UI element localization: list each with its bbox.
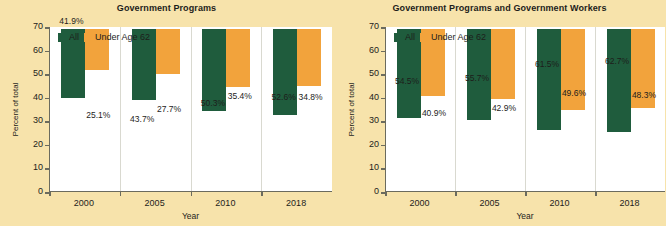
bar-value-label: 61.5% (535, 59, 559, 69)
bar-all-2010[interactable]: 50.3% (202, 29, 226, 191)
legend-label-under-age-62: Under Age 62 (95, 32, 150, 42)
legend-label-all: All (69, 32, 79, 42)
y-tick-label: 60 (369, 45, 379, 55)
x-tick-label: 2010 (191, 198, 261, 208)
legend-label-all: All (405, 32, 415, 42)
bar-value-label: 50.3% (201, 98, 225, 108)
bar-fill (156, 29, 180, 74)
bar-fill (273, 29, 297, 115)
legend-swatch-under-age-62 (84, 33, 92, 42)
bar-groups: 41.9% 25.1% 43.7% 27.7% (50, 27, 332, 191)
y-tick-label: 10 (369, 162, 379, 172)
bar-fill (537, 29, 561, 130)
x-tick-mark (120, 192, 122, 196)
bar-value-label: 49.6% (562, 88, 586, 98)
bar-groups: 54.5% 40.9% 55.7% 42.9% (386, 27, 665, 191)
bar-group-2010: 61.5% 49.6% (526, 27, 596, 191)
bar-all-2010[interactable]: 61.5% (537, 29, 561, 191)
bar-fill (297, 29, 321, 86)
y-tick: 0 (333, 192, 385, 193)
y-tick-label: 30 (33, 115, 43, 125)
y-tick: 40 (333, 98, 385, 99)
bar-under-age-62-2018[interactable]: 48.3% (631, 29, 655, 191)
x-tick-label: 2005 (120, 198, 190, 208)
bar-value-label: 27.7% (157, 104, 181, 114)
bar-under-age-62-2000[interactable]: 40.9% (421, 29, 445, 191)
y-tick: 40 (0, 98, 49, 99)
bar-under-age-62-2010[interactable]: 35.4% (226, 29, 250, 191)
bar-fill (226, 29, 250, 87)
y-axis-label: Percent of total (347, 50, 356, 170)
x-tick-label: 2010 (525, 198, 594, 208)
x-tick-mark (191, 192, 193, 196)
legend-item-under-age-62: Under Age 62 (420, 32, 486, 42)
bar-fill (397, 29, 421, 118)
plot-area: All Under Age 62 54.5% 40.9% (385, 27, 665, 192)
bar-all-2000[interactable]: 54.5% (397, 29, 421, 191)
bar-value-label: 40.9% (422, 108, 446, 118)
y-tick-label: 20 (369, 139, 379, 149)
x-tick-mark (385, 192, 387, 196)
bar-group-2018: 52.6% 34.8% (262, 27, 332, 191)
x-tick-mark (595, 192, 597, 196)
y-tick-label: 40 (33, 92, 43, 102)
y-tick-label: 20 (33, 139, 43, 149)
x-tick-label: 2005 (455, 198, 524, 208)
bar-fill (491, 29, 515, 99)
y-tick: 70 (333, 27, 385, 28)
bar-value-label: 41.9% (59, 16, 83, 26)
y-tick: 50 (333, 74, 385, 75)
y-tick-label: 0 (374, 186, 379, 196)
legend-swatch-all (58, 33, 66, 42)
x-axis-label: Year (49, 211, 332, 221)
bar-all-2000[interactable]: 41.9% (61, 29, 85, 191)
y-tick: 10 (333, 168, 385, 169)
bar-under-age-62-2005[interactable]: 42.9% (491, 29, 515, 191)
bar-value-label: 62.7% (605, 56, 629, 66)
bar-value-label: 42.9% (492, 103, 516, 113)
y-tick: 20 (0, 145, 49, 146)
chart-panel-government-programs-and-government-workers: Government Programs and Government Worke… (333, 0, 666, 226)
y-tick-label: 50 (33, 68, 43, 78)
x-tick-label: 2000 (49, 198, 119, 208)
bar-under-age-62-2018[interactable]: 34.8% (297, 29, 321, 191)
bar-under-age-62-2005[interactable]: 27.7% (156, 29, 180, 191)
legend-swatch-all (394, 33, 402, 42)
plot-area: All Under Age 62 41.9% 25.1% (49, 27, 332, 192)
y-tick: 70 (0, 27, 49, 28)
legend-item-all: All (58, 32, 79, 42)
bar-value-label: 48.3% (632, 90, 656, 100)
bar-value-label: 34.8% (299, 92, 323, 102)
y-tick-label: 40 (369, 92, 379, 102)
y-axis: Percent of total 70 60 50 40 30 20 10 0 (0, 27, 49, 192)
bar-group-2000: 54.5% 40.9% (386, 27, 456, 191)
legend-label-under-age-62: Under Age 62 (431, 32, 486, 42)
y-tick-label: 70 (369, 21, 379, 31)
bar-value-label: 52.6% (272, 92, 296, 102)
x-tick-mark (525, 192, 527, 196)
bar-all-2018[interactable]: 52.6% (273, 29, 297, 191)
x-axis-label: Year (385, 211, 665, 221)
bar-group-2005: 43.7% 27.7% (121, 27, 192, 191)
y-tick-label: 70 (33, 21, 43, 31)
y-axis-label: Percent of total (11, 50, 20, 170)
y-tick-label: 60 (33, 45, 43, 55)
y-tick: 0 (0, 192, 49, 193)
bar-all-2018[interactable]: 62.7% (607, 29, 631, 191)
bar-under-age-62-2010[interactable]: 49.6% (561, 29, 585, 191)
bar-all-2005[interactable]: 43.7% (132, 29, 156, 191)
bar-group-2010: 50.3% 35.4% (192, 27, 263, 191)
legend-item-all: All (394, 32, 415, 42)
legend: All Under Age 62 (58, 32, 150, 42)
y-tick-label: 30 (369, 115, 379, 125)
bar-value-label: 55.7% (465, 73, 489, 83)
y-tick: 10 (0, 168, 49, 169)
bar-under-age-62-2000[interactable]: 25.1% (85, 29, 109, 191)
chart-title: Government Programs (0, 3, 333, 13)
chart-title: Government Programs and Government Worke… (333, 3, 666, 13)
x-tick-label: 2018 (595, 198, 664, 208)
y-tick-label: 0 (38, 186, 43, 196)
y-tick-label: 10 (33, 162, 43, 172)
x-tick-mark (49, 192, 51, 196)
bar-all-2005[interactable]: 55.7% (467, 29, 491, 191)
